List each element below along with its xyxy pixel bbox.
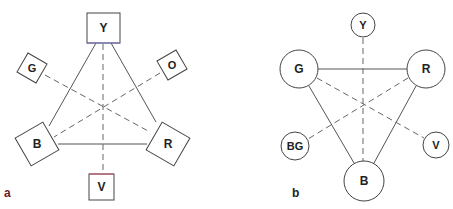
svg-text:Y: Y xyxy=(99,21,107,35)
svg-text:B: B xyxy=(33,137,42,151)
edge-g-v xyxy=(317,78,424,138)
node-b-g: G xyxy=(280,50,318,88)
node-b-v: V xyxy=(423,132,449,158)
svg-text:R: R xyxy=(164,137,173,151)
svg-text:O: O xyxy=(168,59,177,71)
node-a-r: R xyxy=(146,122,190,166)
svg-text:Y: Y xyxy=(359,19,367,31)
edge-o-b xyxy=(54,73,160,137)
edge-r-b xyxy=(374,86,416,163)
node-b-y: Y xyxy=(351,13,375,37)
node-a-b: B xyxy=(15,122,59,166)
panel-b-label: b xyxy=(292,186,299,200)
svg-text:R: R xyxy=(422,62,431,76)
node-b-bg: BG xyxy=(281,132,309,160)
edge-g-b xyxy=(309,86,354,163)
svg-text:V: V xyxy=(432,139,440,151)
svg-text:V: V xyxy=(97,180,105,194)
svg-text:G: G xyxy=(28,62,37,74)
svg-text:B: B xyxy=(360,174,369,188)
panel-a: Y G O B R V a xyxy=(4,13,190,200)
node-a-g: G xyxy=(17,53,47,83)
node-b-b: B xyxy=(344,161,384,201)
edge-r-bg xyxy=(308,78,408,139)
edge-y-b xyxy=(49,43,96,126)
svg-text:BG: BG xyxy=(287,140,304,152)
edge-y-r xyxy=(111,43,156,122)
node-a-v: V xyxy=(89,174,114,200)
svg-text:G: G xyxy=(294,62,303,76)
panel-b: Y G R BG V B b xyxy=(280,13,449,201)
node-a-y: Y xyxy=(87,13,120,43)
node-b-r: R xyxy=(407,50,445,88)
color-opponent-diagram: Y G O B R V a xyxy=(0,0,453,209)
node-a-o: O xyxy=(157,50,187,80)
panel-a-label: a xyxy=(4,186,11,200)
